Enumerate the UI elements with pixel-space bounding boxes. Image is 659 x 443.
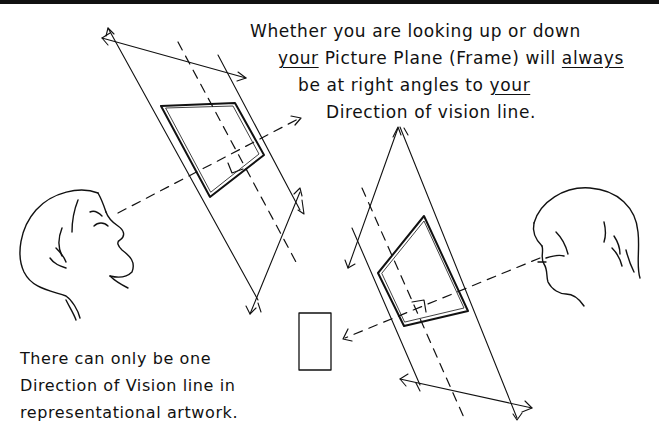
- bottom-note-line-3: representational artwork.: [20, 399, 238, 426]
- emphasis-always: always: [562, 48, 624, 68]
- right-vision-line: [343, 258, 540, 341]
- top-note-line-3: be at right angles to your: [250, 72, 624, 99]
- bottom-note-line-1: There can only be one: [20, 345, 238, 372]
- top-note-line-3-text: be at right angles to: [298, 75, 490, 95]
- top-note-line-2: your Picture Plane (Frame) will always: [250, 45, 624, 72]
- bottom-note: There can only be one Direction of Visio…: [20, 345, 238, 426]
- left-vision-line: [118, 116, 301, 213]
- target-rectangle: [299, 313, 331, 370]
- top-note: Whether you are looking up or down your …: [250, 18, 624, 126]
- right-head: [533, 188, 640, 306]
- emphasis-your: your: [278, 48, 319, 68]
- top-note-line-4: Direction of vision line.: [250, 99, 624, 126]
- emphasis-your-2: your: [490, 75, 531, 95]
- top-note-line-1: Whether you are looking up or down: [250, 18, 624, 45]
- bottom-note-line-2: Direction of Vision line in: [20, 372, 238, 399]
- left-head: [20, 190, 133, 320]
- lower-picture-plane: [345, 127, 532, 420]
- top-note-line-2-text: Picture Plane (Frame) will: [319, 48, 562, 68]
